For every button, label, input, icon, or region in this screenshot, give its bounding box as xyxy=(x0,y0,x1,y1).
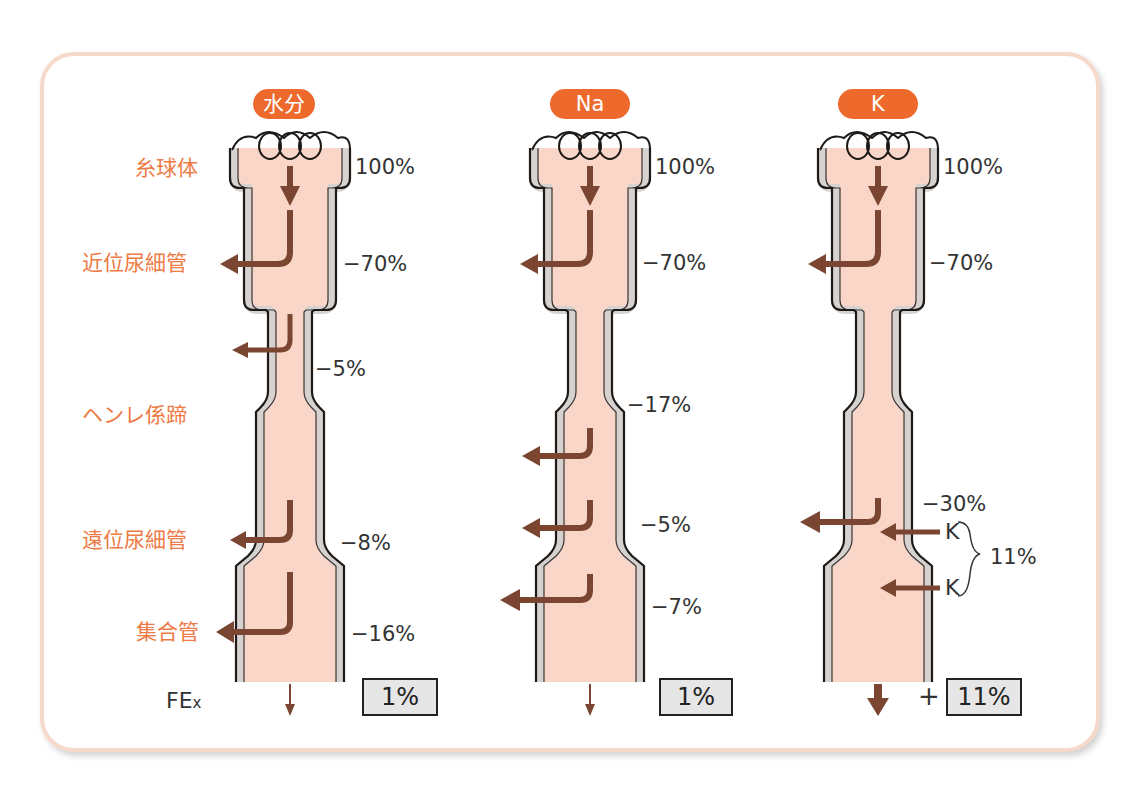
fe-box-k: 11% xyxy=(946,678,1022,716)
label-glomerulus: 糸球体 xyxy=(135,158,198,179)
tubule-k xyxy=(800,132,980,716)
pct-na-filtered: 100% xyxy=(655,157,715,178)
label-loop-of-henle: ヘンレ係蹄 xyxy=(82,405,187,426)
pct-k-secretion-total: 11% xyxy=(990,547,1037,568)
pill-k: K xyxy=(838,89,918,119)
fex-sub: x xyxy=(193,694,202,712)
plus-sign: + xyxy=(918,683,940,709)
fex-label: FEx xyxy=(166,690,201,712)
pct-k-filtered: 100% xyxy=(943,157,1003,178)
tubule-water xyxy=(216,132,350,716)
label-collecting-duct: 集合管 xyxy=(136,622,199,643)
pill-water: 水分 xyxy=(253,89,315,119)
label-distal-tubule: 遠位尿細管 xyxy=(82,530,187,551)
pct-water-collecting: −16% xyxy=(351,624,415,645)
fex-main: FE xyxy=(166,688,193,713)
pill-na: Na xyxy=(550,89,630,119)
pct-na-proximal: −70% xyxy=(642,253,706,274)
pct-k-loop-distal: −30% xyxy=(922,494,986,515)
label-proximal-tubule: 近位尿細管 xyxy=(82,253,187,274)
tubule-na xyxy=(500,132,650,716)
pct-water-distal: −8% xyxy=(340,533,391,554)
pct-k-proximal: −70% xyxy=(929,253,993,274)
k-secretion-label-1: K xyxy=(945,521,959,543)
pct-na-loop: −17% xyxy=(627,395,691,416)
pct-water-loop: −5% xyxy=(315,359,366,380)
fe-box-na: 1% xyxy=(659,678,733,716)
fe-box-water: 1% xyxy=(362,678,438,716)
pct-water-proximal: −70% xyxy=(343,254,407,275)
pct-na-collecting: −7% xyxy=(651,597,702,618)
k-secretion-label-2: K xyxy=(945,577,959,599)
pct-na-distal: −5% xyxy=(640,515,691,536)
pct-water-filtered: 100% xyxy=(355,157,415,178)
